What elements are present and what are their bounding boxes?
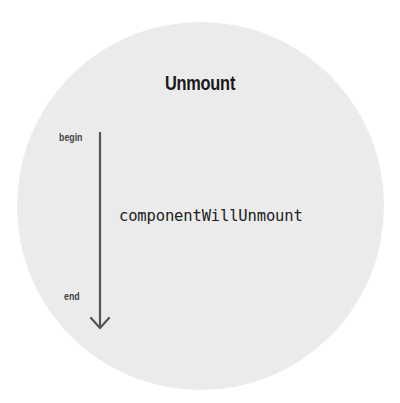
unmount-lifecycle-diagram: Unmount begin end componentWillUnmount [0,0,400,403]
lifecycle-method-component-will-unmount: componentWillUnmount [119,207,303,225]
timeline-arrow-icon [0,0,400,403]
